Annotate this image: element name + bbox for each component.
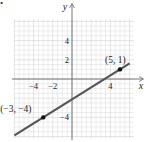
- point-label: (−3, −4): [0, 104, 31, 115]
- y-tick-label: 2: [65, 55, 69, 65]
- grid: [14, 19, 134, 138]
- x-tick-label: −2: [48, 81, 57, 91]
- point-marker: [41, 115, 45, 119]
- point-label: (5, 1): [105, 55, 126, 66]
- point-marker: [118, 67, 122, 71]
- coordinate-plane: (−3, −4)(5, 1)−4−2442−4xy: [0, 0, 148, 142]
- x-axis-label: x: [138, 80, 144, 91]
- y-axis-label: y: [62, 1, 68, 12]
- figure-bullet: •: [0, 0, 3, 8]
- x-tick-label: 4: [108, 81, 113, 91]
- axes: [12, 4, 144, 141]
- x-tick-label: −4: [29, 81, 39, 91]
- y-tick-label: −4: [60, 112, 70, 122]
